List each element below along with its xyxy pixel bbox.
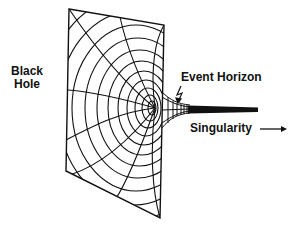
black-hole-label: Black Hole (10, 65, 44, 90)
singularity-line (188, 106, 258, 114)
black-hole-label-line1: Black (10, 65, 44, 78)
black-hole-label-line2: Hole (10, 78, 44, 91)
arrow-right-icon (260, 124, 288, 134)
zigzag-arrow-icon (176, 86, 182, 103)
event-horizon-label: Event Horizon (181, 71, 262, 83)
singularity-label: Singularity (190, 122, 252, 134)
black-hole-diagram (0, 0, 291, 227)
